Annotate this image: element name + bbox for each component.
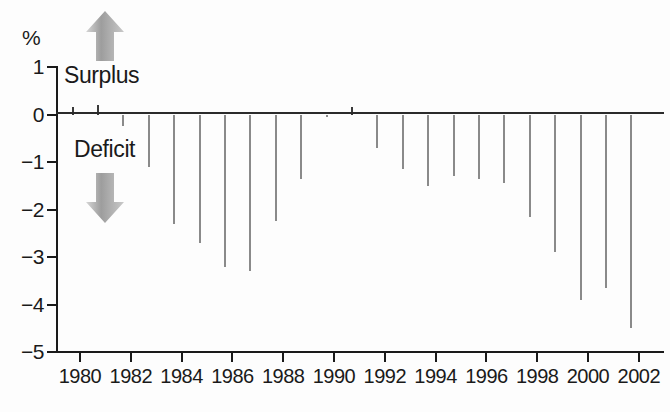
budget-balance-chart: % Surplus (0, 0, 670, 412)
y-tick-mark (47, 209, 56, 211)
bar-1990 (326, 115, 328, 117)
x-tick-label: 1994 (414, 365, 457, 387)
y-tick-label: −5 (0, 341, 44, 362)
surplus-label: Surplus (64, 64, 139, 87)
x-tick-mark (130, 352, 132, 362)
y-tick-label: −1 (0, 151, 44, 172)
x-tick-label: 2000 (567, 365, 610, 387)
bar-1988 (275, 115, 277, 222)
bar-1982 (122, 115, 124, 127)
y-tick-mark (47, 161, 56, 163)
deficit-label: Deficit (74, 138, 135, 161)
bar-1993 (402, 115, 404, 170)
x-tick-mark (536, 352, 538, 362)
bar-2002 (630, 115, 632, 329)
x-tick-mark (181, 352, 183, 362)
x-tick-mark (384, 352, 386, 362)
bar-1994 (427, 115, 429, 186)
x-tick-label: 1998 (516, 365, 559, 387)
x-tick-label: 1980 (59, 365, 102, 387)
y-tick-mark (47, 351, 56, 353)
down-arrow-icon (84, 172, 126, 224)
bar-1995 (453, 115, 455, 177)
x-axis-line (56, 351, 664, 353)
x-tick-label: 1996 (465, 365, 508, 387)
up-arrow-icon (84, 10, 126, 62)
y-axis-unit-label: % (22, 27, 41, 48)
x-tick-mark (282, 352, 284, 362)
y-tick-label: 0 (0, 104, 44, 125)
bar-1984 (173, 115, 175, 224)
y-tick-mark (47, 256, 56, 258)
bar-1992 (376, 115, 378, 148)
y-tick-label: 1 (0, 56, 44, 77)
x-tick-label: 1988 (262, 365, 305, 387)
x-tick-label: 1992 (364, 365, 407, 387)
y-tick-label: −2 (0, 199, 44, 220)
x-tick-mark (435, 352, 437, 362)
x-tick-mark (333, 352, 335, 362)
y-axis-line (56, 66, 58, 353)
y-tick-label: −4 (0, 294, 44, 315)
bar-1986 (224, 115, 226, 267)
bar-1996 (478, 115, 480, 179)
x-tick-label: 1984 (160, 365, 203, 387)
x-tick-label: 1990 (313, 365, 356, 387)
bar-1983 (148, 115, 150, 167)
y-tick-label: −3 (0, 246, 44, 267)
bar-1985 (199, 115, 201, 243)
x-tick-label: 2002 (618, 365, 661, 387)
x-tick-label: 1982 (110, 365, 153, 387)
bar-2000 (580, 115, 582, 300)
bar-2001 (605, 115, 607, 288)
x-tick-mark (485, 352, 487, 362)
y-tick-mark (47, 114, 56, 116)
x-tick-mark (231, 352, 233, 362)
bar-1989 (300, 115, 302, 179)
bar-1999 (554, 115, 556, 253)
bar-1997 (503, 115, 505, 184)
y-tick-mark (47, 304, 56, 306)
x-tick-mark (79, 352, 81, 362)
y-tick-mark (47, 66, 56, 68)
x-tick-mark (587, 352, 589, 362)
bar-1987 (249, 115, 251, 272)
x-tick-mark (638, 352, 640, 362)
bar-1998 (529, 115, 531, 217)
zero-baseline (56, 112, 664, 114)
x-tick-label: 1986 (211, 365, 254, 387)
